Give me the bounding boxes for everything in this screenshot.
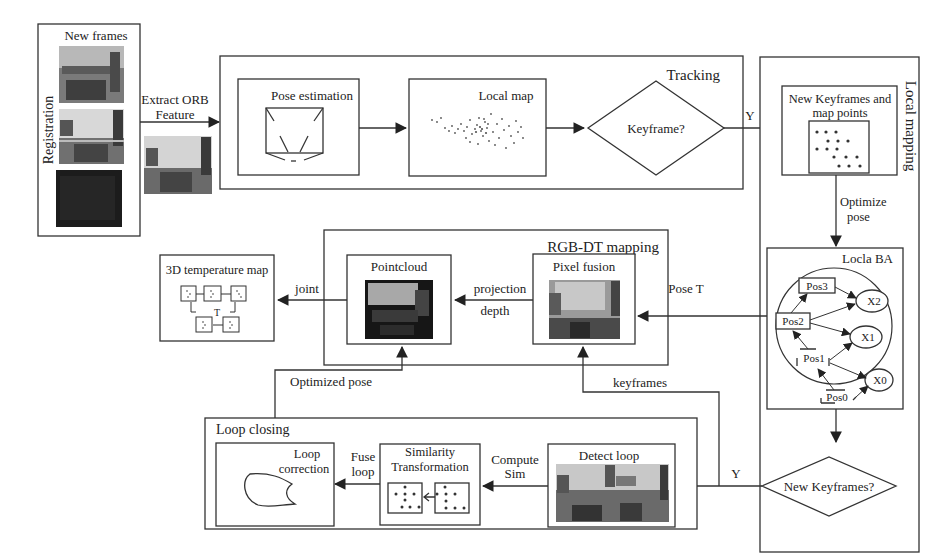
svg-text:Y: Y [731,466,741,481]
svg-text:pose: pose [847,210,870,224]
svg-text:Y: Y [745,108,755,123]
svg-text:projection: projection [474,281,527,296]
svg-text:Extract ORB: Extract ORB [141,92,209,107]
svg-text:keyframes: keyframes [613,375,667,390]
svg-text:Sim: Sim [505,466,526,481]
rgbdt-mapping-panel: RGB-DT mapping Pixel fusion projection d… [324,230,668,365]
local-mapping-title: Local mapping [903,81,919,172]
svg-text:Feature: Feature [156,107,195,122]
pose-node-pos2: Pos2 [776,313,810,329]
svg-text:Pos1: Pos1 [803,352,824,364]
registration-label: Registration [41,96,56,164]
registration-panel: New frames Registration [38,24,140,236]
point-node-x2: X2 [856,290,888,312]
svg-text:Pos2: Pos2 [782,315,803,327]
svg-text:Locla BA: Locla BA [842,251,894,266]
new-frames-title: New frames [64,28,127,43]
detect-loop-box: Detect loop [548,444,675,527]
svg-text:Transformation: Transformation [391,460,469,474]
svg-text:Fuse: Fuse [351,449,376,464]
frame-image-2 [59,109,124,164]
pose-node-pos3: Pos3 [799,278,835,293]
svg-text:Optimized pose: Optimized pose [290,374,372,389]
svg-text:T: T [214,307,220,318]
loop-closing-panel: Loop closing Detect loop Compute Sim Sim… [205,418,697,529]
loop-correction-box: Loop correction [216,443,334,526]
loop-closing-title: Loop closing [216,422,290,437]
svg-text:Optimize: Optimize [840,195,887,209]
svg-text:X0: X0 [873,374,887,386]
svg-text:Loop: Loop [294,447,320,461]
frame-image-3 [56,170,122,227]
new-keyframes-box: New Keyframes and map points [782,86,897,175]
detect-loop-image [556,464,669,522]
temperature-map-box: 3D temperature map T [160,255,274,341]
svg-text:New Keyframes and: New Keyframes and [789,92,892,106]
svg-text:Pos0: Pos0 [826,391,848,403]
svg-text:Similarity: Similarity [405,445,456,459]
svg-text:Pose T: Pose T [668,281,704,296]
svg-text:map points: map points [812,106,867,120]
svg-text:Detect loop: Detect loop [579,448,639,463]
svg-text:depth: depth [481,303,510,318]
svg-text:New Keyframes?: New Keyframes? [784,479,875,494]
svg-text:Pixel fusion: Pixel fusion [553,259,616,274]
local-map-box: Local map [409,79,546,176]
svg-text:joint: joint [294,281,319,296]
similarity-transformation-box: Similarity Transformation [380,444,480,525]
svg-text:Pointcloud: Pointcloud [371,259,428,274]
svg-text:Pose estimation: Pose estimation [271,88,353,103]
svg-text:Pos3: Pos3 [806,280,828,292]
svg-text:Local map: Local map [478,88,533,103]
pixel-fusion-box: Pixel fusion [533,254,635,344]
svg-text:X1: X1 [861,331,874,343]
svg-text:correction: correction [279,462,330,476]
point-node-x1: X1 [850,326,882,348]
tracking-panel: Tracking Pose estimation Local map [220,56,743,189]
svg-text:Keyframe?: Keyframe? [627,121,685,136]
point-node-x0: X0 [865,369,893,391]
extract-orb-edge: Extract ORB Feature [140,92,219,122]
frame-image-1 [59,46,124,103]
local-ba-box: Locla BA Pos3 Pos2 Pos1 Pos0 [767,248,903,409]
svg-text:X2: X2 [867,295,880,307]
extracted-frame-image [144,136,212,194]
svg-text:loop: loop [351,464,374,479]
local-mapping-panel: Local mapping New Keyframes and map poin… [760,57,919,552]
tracking-title: Tracking [666,67,720,83]
slam-pipeline-diagram: New frames Registration Extract ORB F [0,0,945,557]
rgbdt-mapping-title: RGB-DT mapping [547,239,659,255]
fused-image [549,280,620,339]
pointcloud-box: Pointcloud [347,255,451,344]
svg-text:Compute: Compute [491,452,539,467]
pose-estimation-box: Pose estimation [238,79,359,175]
svg-text:3D temperature map: 3D temperature map [166,263,269,277]
pointcloud-image [365,280,433,339]
